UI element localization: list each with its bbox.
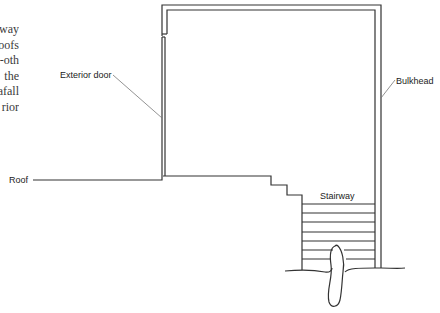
bulkhead-leader (381, 80, 395, 98)
exterior-door-label: Exterior door (60, 70, 112, 80)
roof-label: Roof (9, 175, 29, 185)
floor-steps (163, 176, 302, 270)
leader-lines (113, 75, 395, 118)
exterior-door-leader (113, 75, 162, 118)
roof-line (33, 176, 162, 180)
ground-line-right (345, 268, 405, 272)
structure (33, 5, 405, 306)
stairway-label: Stairway (320, 191, 355, 201)
opening-shape (328, 245, 343, 306)
outer-wall (162, 5, 381, 268)
ground-line-left (285, 268, 332, 272)
bulkhead-diagram: Exterior door Bulkhead Roof Stairway (0, 0, 440, 313)
bulkhead-label: Bulkhead (396, 76, 434, 86)
inner-wall (167, 10, 375, 268)
stair-treads (302, 204, 375, 259)
